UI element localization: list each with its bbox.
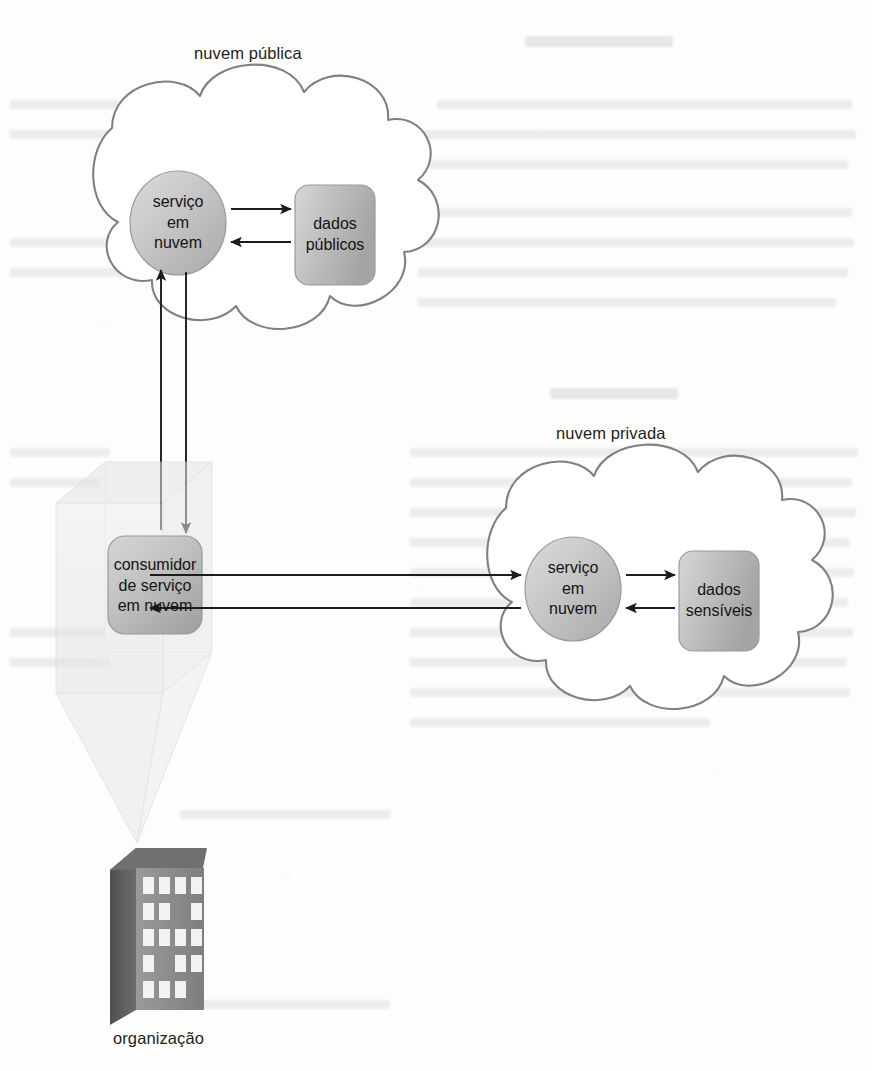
public-data-store-line-2: públicos bbox=[287, 235, 383, 256]
building-window bbox=[143, 929, 154, 946]
public-cloud-service-line-3: nuvem bbox=[130, 233, 226, 254]
building-window bbox=[143, 955, 154, 972]
private-cloud-service-label: serviço em nuvem bbox=[525, 558, 621, 620]
public-cloud-service-line-2: em bbox=[130, 213, 226, 234]
public-cloud-service-line-1: serviço bbox=[130, 192, 226, 213]
private-cloud-service-line-3: nuvem bbox=[525, 599, 621, 620]
private-cloud-service-line-2: em bbox=[525, 579, 621, 600]
building-window bbox=[159, 981, 170, 998]
building-window bbox=[175, 929, 186, 946]
building-side-face bbox=[110, 848, 136, 1025]
building-window bbox=[191, 929, 202, 946]
public-cloud-label: nuvem pública bbox=[194, 44, 302, 63]
private-data-store-label: dados sensíveis bbox=[668, 580, 770, 621]
cloud-architecture-diagram bbox=[0, 0, 872, 1071]
building-window bbox=[191, 955, 202, 972]
building-window bbox=[143, 981, 154, 998]
building-window bbox=[143, 903, 154, 920]
building-top-face bbox=[110, 848, 207, 870]
consumer-prism bbox=[56, 462, 212, 843]
public-cloud-service-label: serviço em nuvem bbox=[130, 192, 226, 254]
cloud-service-consumer-label: consumidor de serviço em nuvem bbox=[95, 555, 215, 617]
building-window bbox=[191, 877, 202, 894]
building-window bbox=[175, 981, 186, 998]
building-window bbox=[159, 929, 170, 946]
private-data-store-line-2: sensíveis bbox=[668, 601, 770, 622]
public-data-store-line-1: dados bbox=[287, 214, 383, 235]
cloud-service-consumer-line-2: de serviço bbox=[95, 576, 215, 597]
organization-label: organização bbox=[113, 1029, 204, 1048]
organization-building[interactable] bbox=[110, 848, 207, 1025]
private-cloud-service-line-1: serviço bbox=[525, 558, 621, 579]
private-data-store-line-1: dados bbox=[668, 580, 770, 601]
prism-funnel-front bbox=[56, 693, 163, 843]
building-window bbox=[191, 903, 202, 920]
private-cloud-label: nuvem privada bbox=[556, 424, 666, 443]
cloud-service-consumer-line-1: consumidor bbox=[95, 555, 215, 576]
building-window bbox=[175, 955, 186, 972]
public-data-store-label: dados públicos bbox=[287, 214, 383, 255]
building-window bbox=[175, 877, 186, 894]
building-window bbox=[143, 877, 154, 894]
building-window bbox=[159, 903, 170, 920]
building-window bbox=[159, 877, 170, 894]
cloud-service-consumer-line-3: em nuvem bbox=[95, 596, 215, 617]
